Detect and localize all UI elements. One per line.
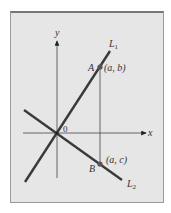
origin-label: 0 [63, 124, 68, 134]
origin-point [56, 132, 59, 135]
diagram-canvas: y x 0 L1 L2 A (a, b) B (a, c) [0, 0, 171, 213]
y-axis-label: y [54, 27, 60, 38]
line-L1-label: L1 [108, 38, 119, 51]
point-A-label: A [87, 62, 95, 73]
point-B-coords: (a, c) [106, 154, 128, 166]
point-B-label: B [89, 163, 95, 174]
point-A [97, 64, 102, 69]
x-axis-label: x [147, 127, 153, 138]
point-A-coords: (a, b) [104, 62, 126, 74]
point-B [97, 161, 102, 166]
line-L2-label: L2 [126, 178, 137, 191]
line-L2 [24, 110, 122, 180]
